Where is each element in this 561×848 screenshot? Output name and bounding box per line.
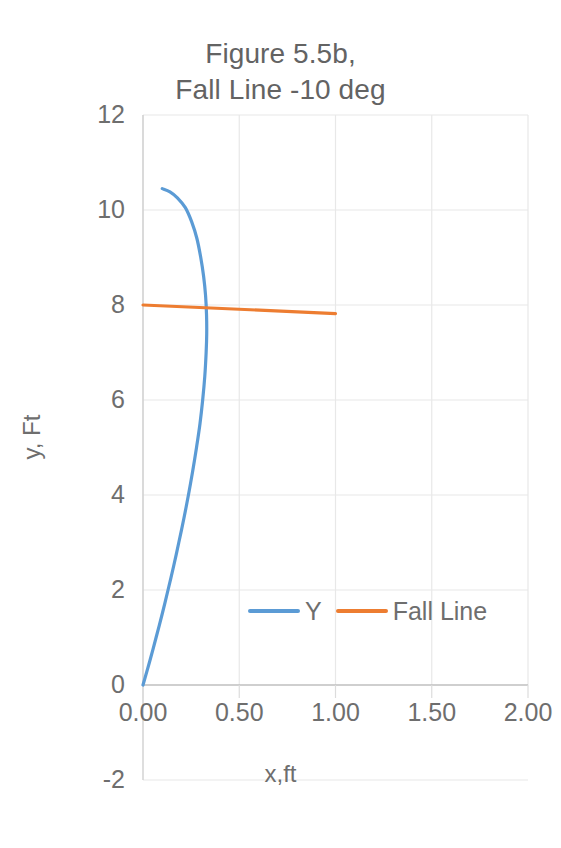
x-axis-title: x,ft <box>0 760 561 788</box>
y-tick-label: 10 <box>55 196 125 222</box>
y-tick-label: 8 <box>55 291 125 317</box>
legend-entry[interactable]: Y <box>248 599 322 624</box>
y-tick-label: 12 <box>55 101 125 127</box>
legend-label: Y <box>305 599 322 624</box>
y-tick-label: 4 <box>55 481 125 507</box>
legend-color-swatch <box>336 609 388 613</box>
chart-legend: YFall Line <box>248 596 501 626</box>
x-tick-label: 1.00 <box>291 699 381 725</box>
chart-container: Figure 5.5b, Fall Line -10 deg 121086420… <box>0 0 561 848</box>
x-tick-label: 0.50 <box>194 699 284 725</box>
legend-color-swatch <box>248 609 300 613</box>
series-line-y <box>143 189 207 685</box>
legend-label: Fall Line <box>393 599 488 624</box>
y-tick-label: 6 <box>55 386 125 412</box>
x-tick-label: 0.00 <box>98 699 188 725</box>
x-tick-label: 1.50 <box>387 699 477 725</box>
y-tick-label: 2 <box>55 576 125 602</box>
y-tick-label: 0 <box>55 671 125 697</box>
legend-entry[interactable]: Fall Line <box>336 599 488 624</box>
y-axis-title: y, Ft <box>18 382 46 492</box>
x-tick-label: 2.00 <box>483 699 561 725</box>
